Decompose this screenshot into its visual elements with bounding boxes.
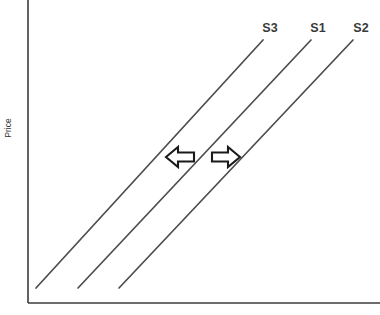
supply-shift-chart: S3 S1 S2 Price bbox=[0, 0, 380, 315]
supply-curve-s1 bbox=[78, 40, 311, 288]
leftward-shift-arrow bbox=[166, 147, 194, 167]
curve-label-s3: S3 bbox=[262, 21, 277, 35]
chart-canvas: S3 S1 S2 Price bbox=[0, 0, 380, 315]
supply-curve-s2 bbox=[119, 40, 353, 288]
curve-label-s2: S2 bbox=[353, 21, 368, 35]
curve-label-s1: S1 bbox=[310, 21, 325, 35]
y-axis-title: Price bbox=[3, 118, 13, 138]
